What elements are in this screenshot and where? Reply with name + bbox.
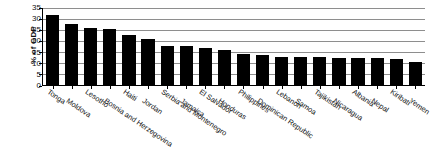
bar	[84, 28, 97, 85]
bar	[122, 35, 135, 85]
bar-slot	[81, 8, 100, 85]
bar-slot	[387, 8, 406, 85]
bar-slot	[406, 8, 425, 85]
y-axis-tick-label: 35	[1, 4, 41, 12]
bar	[371, 58, 384, 85]
bar-slot	[196, 8, 215, 85]
bar-slot	[272, 8, 291, 85]
x-axis-category-label: Bosnia and Herzegovina	[102, 97, 173, 149]
bar	[65, 24, 78, 85]
y-axis-tick-label: 10	[1, 60, 41, 68]
x-axis-category-label: Yemen	[408, 97, 431, 116]
bar-slot	[138, 8, 157, 85]
y-axis-tick-label: 20	[1, 37, 41, 45]
bar	[390, 59, 403, 85]
bar	[103, 29, 116, 85]
bar-slot	[43, 8, 62, 85]
bar-slot	[329, 8, 348, 85]
bar	[275, 57, 288, 85]
x-axis-category-label: Nepal	[370, 97, 390, 114]
bar-slot	[215, 8, 234, 85]
bar-series	[43, 8, 425, 85]
bar-slot	[310, 8, 329, 85]
x-axis-category-labels: TongaMoldovaLesothoBosnia and Herzegovin…	[43, 88, 425, 150]
bar-chart: % of GDP 05101520253035 TongaMoldovaLeso…	[0, 0, 435, 151]
bar	[46, 15, 59, 85]
bar	[294, 57, 307, 85]
bar-slot	[62, 8, 81, 85]
bar-slot	[234, 8, 253, 85]
bar	[409, 62, 422, 85]
x-axis-category-label: Moldova	[64, 97, 92, 119]
bar-slot	[253, 8, 272, 85]
bar-slot	[291, 8, 310, 85]
y-axis-tick-label: 15	[1, 49, 41, 57]
bar	[256, 55, 269, 85]
bar	[141, 39, 154, 85]
bar-slot	[368, 8, 387, 85]
bar	[218, 50, 231, 85]
y-axis-tick-label: 5	[1, 71, 41, 79]
bar	[313, 57, 326, 85]
y-axis-tick-label: 30	[1, 15, 41, 23]
bar-slot	[177, 8, 196, 85]
x-axis-category-label: Jordan	[141, 97, 164, 116]
x-axis-category-label: Haiti	[121, 88, 138, 103]
bar	[237, 54, 250, 85]
bar-slot	[100, 8, 119, 85]
y-axis-tick-label: 0	[1, 82, 41, 90]
x-axis-category-label: Tonga	[45, 88, 66, 106]
bar	[199, 48, 212, 85]
y-axis-tick-label: 25	[1, 26, 41, 34]
bar	[161, 46, 174, 85]
plot-area: 05101520253035	[42, 8, 425, 86]
bar-slot	[158, 8, 177, 85]
bar	[351, 58, 364, 85]
bar	[180, 46, 193, 85]
bar-slot	[119, 8, 138, 85]
bar-slot	[349, 8, 368, 85]
plot-inner: 05101520253035	[42, 8, 425, 86]
bar	[332, 58, 345, 85]
